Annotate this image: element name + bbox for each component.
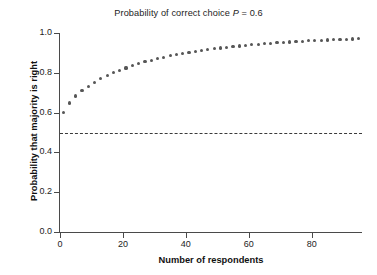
data-point [150,59,153,62]
data-point [238,44,241,47]
chart-title-prefix: Probability of correct choice [114,8,232,18]
reference-line-half [60,133,362,134]
chart-title: Probability of correct choice P = 0.6 [0,8,377,18]
data-point [231,45,234,48]
data-point [313,39,316,42]
data-point [282,41,285,44]
data-point [106,74,109,77]
data-point [187,51,190,54]
data-point [263,42,266,45]
data-point [213,47,216,50]
y-tick-mark [54,33,59,34]
data-point [156,57,159,60]
data-point [124,66,127,69]
x-tick-label: 80 [292,240,332,249]
data-point [62,111,65,114]
plot-area [60,33,362,232]
data-point [326,38,329,41]
x-axis-line [59,232,362,233]
x-tick-label: 0 [40,240,80,249]
data-point [93,81,96,84]
data-point [137,62,140,65]
data-point [74,94,77,97]
data-point [169,54,172,57]
data-point [338,38,341,41]
data-point [118,69,121,72]
x-tick-mark [186,233,187,238]
x-tick-label: 40 [166,240,206,249]
x-tick-mark [312,233,313,238]
data-point [320,39,323,42]
data-point [275,41,278,44]
data-point [288,40,291,43]
data-point [162,56,165,59]
data-point [206,48,209,51]
data-point [351,37,354,40]
x-tick-mark [60,233,61,238]
data-point [194,50,197,53]
data-point [219,46,222,49]
data-point [225,46,228,49]
data-point [244,44,247,47]
chart-figure: Probability of correct choice P = 0.6 0.… [0,0,377,275]
data-point [68,101,71,104]
data-point [175,53,178,56]
y-tick-mark [54,113,59,114]
data-point [99,77,102,80]
y-tick-mark [54,192,59,193]
data-point [200,49,203,52]
x-tick-label: 20 [103,240,143,249]
data-point [307,39,310,42]
y-tick-mark [54,152,59,153]
data-point [294,40,297,43]
chart-title-suffix: = 0.6 [239,8,263,18]
data-point [131,64,134,67]
data-point [332,38,335,41]
y-tick-mark [54,73,59,74]
data-point [181,52,184,55]
data-point [250,43,253,46]
data-point [269,42,272,45]
x-tick-mark [249,233,250,238]
x-tick-label: 60 [229,240,269,249]
x-axis-title: Number of respondents [60,255,362,265]
data-point [112,71,115,74]
data-point [301,40,304,43]
y-tick-mark [54,232,59,233]
data-point [257,43,260,46]
data-point [345,38,348,41]
data-point [357,37,360,40]
x-tick-mark [123,233,124,238]
data-point [80,89,83,92]
data-point [87,85,90,88]
y-axis-title: Probability that majority is right [29,31,39,231]
data-point [143,60,146,63]
